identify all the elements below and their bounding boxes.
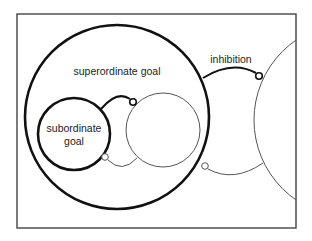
inhibition-terminal-icon	[102, 154, 109, 161]
subordinate-goal-label-line2: goal	[64, 135, 84, 147]
inhibition-terminal-icon	[202, 163, 209, 170]
inhibition-terminal-icon	[130, 99, 137, 106]
subordinate-goal-label-line1: subordinate	[47, 122, 102, 134]
superordinate-goal-label: superordinate goal	[74, 65, 161, 77]
goal-inhibition-diagram: superordinate goal subordinate goal inhi…	[0, 0, 312, 241]
inhibition-label: inhibition	[210, 53, 252, 65]
inhibition-terminal-icon	[256, 73, 263, 80]
